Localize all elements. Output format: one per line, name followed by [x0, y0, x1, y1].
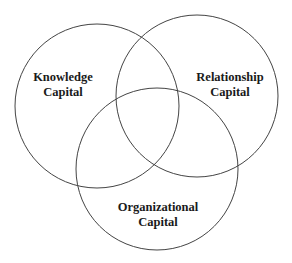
knowledge-capital-label: Knowledge Capital	[33, 70, 93, 100]
relationship-capital-label: Relationship Capital	[196, 70, 263, 100]
knowledge-capital-circle	[15, 24, 179, 188]
knowledge-label-line1: Knowledge	[33, 70, 93, 85]
organizational-capital-label: Organizational Capital	[118, 200, 199, 230]
organizational-label-line1: Organizational	[118, 200, 199, 215]
relationship-label-line1: Relationship	[196, 70, 263, 85]
relationship-label-line2: Capital	[196, 85, 263, 100]
knowledge-label-line2: Capital	[33, 85, 93, 100]
organizational-label-line2: Capital	[118, 215, 199, 230]
